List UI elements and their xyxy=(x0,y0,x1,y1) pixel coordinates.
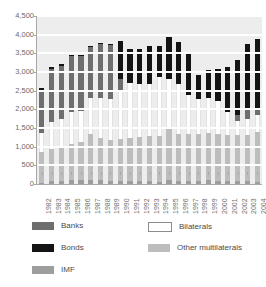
bar-column xyxy=(186,16,191,184)
bar-column xyxy=(245,16,250,184)
y-tick-label: 500 xyxy=(2,161,34,169)
bar-segment-bilaterals xyxy=(118,91,123,140)
x-tick-mark xyxy=(208,172,209,175)
legend-item-imf[interactable]: IMF xyxy=(32,266,75,274)
x-tick-mark xyxy=(130,172,131,175)
legend-item-bilaterals[interactable]: Bilaterals xyxy=(148,222,212,232)
x-tick-mark xyxy=(42,172,43,175)
y-tick-label: 1,500 xyxy=(2,124,34,132)
x-tick-label: 1993 xyxy=(153,198,160,214)
chart-figure: 4,5004,0003,5003,0002,5002,0001,5001,000… xyxy=(0,0,266,287)
legend-item-bonds[interactable]: Bonds xyxy=(32,244,84,252)
x-tick-mark xyxy=(52,172,53,175)
x-tick-label: 1983 xyxy=(55,198,62,214)
bar-column xyxy=(225,16,230,184)
bar-column xyxy=(98,16,103,184)
bar-segment-bonds xyxy=(176,42,181,84)
bar-segment-bonds xyxy=(49,67,54,69)
bar-column xyxy=(206,16,211,184)
bar-segment-bilaterals xyxy=(98,98,103,138)
plot-wrapper: 4,5004,0003,5003,0002,5002,0001,5001,000… xyxy=(0,12,266,190)
gridline xyxy=(37,90,262,92)
y-tick-label: 0 xyxy=(2,180,34,188)
x-tick-mark xyxy=(140,172,141,175)
x-tick-label: 1996 xyxy=(182,198,189,214)
bar-segment-bilaterals xyxy=(225,112,230,134)
bar-segment-bonds xyxy=(196,75,201,99)
bar-segment-bonds xyxy=(78,55,83,56)
bars-layer xyxy=(37,16,262,184)
bar-segment-banks xyxy=(59,66,64,119)
bar-segment-bonds xyxy=(235,60,240,116)
legend-swatch-other_multilaterals xyxy=(148,244,170,252)
legend-item-banks[interactable]: Banks xyxy=(32,222,83,230)
bar-segment-banks xyxy=(69,56,74,112)
x-tick-mark xyxy=(101,172,102,175)
y-tick-mark xyxy=(33,53,37,54)
bar-segment-bonds xyxy=(206,70,211,98)
x-tick-mark xyxy=(91,172,92,175)
bar-segment-bonds xyxy=(98,43,103,44)
x-tick-mark xyxy=(228,172,229,175)
gridline xyxy=(37,34,262,36)
gridline xyxy=(37,127,262,129)
y-tick-label: 3,500 xyxy=(2,49,34,57)
bar-segment-bonds xyxy=(59,64,64,67)
x-tick-mark xyxy=(247,172,248,175)
y-tick-mark xyxy=(33,35,37,36)
legend-label-banks: Banks xyxy=(61,222,83,230)
x-tick-mark xyxy=(61,172,62,175)
bar-segment-bonds xyxy=(88,46,93,47)
bar-column xyxy=(78,16,83,184)
x-tick-mark xyxy=(159,172,160,175)
bar-column xyxy=(127,16,132,184)
x-tick-label: 1997 xyxy=(192,198,199,214)
x-tick-label: 1991 xyxy=(133,198,140,214)
x-tick-label: 1987 xyxy=(94,198,101,214)
plot-area xyxy=(37,16,262,184)
x-tick-label: 1989 xyxy=(113,198,120,214)
x-tick-mark xyxy=(71,172,72,175)
x-axis-line xyxy=(36,184,262,185)
bar-segment-other_multilaterals xyxy=(39,152,44,183)
x-tick-label: 1986 xyxy=(84,198,91,214)
bar-segment-bilaterals xyxy=(215,101,220,134)
bar-column xyxy=(196,16,201,184)
bar-segment-other_multilaterals xyxy=(59,146,64,181)
bar-segment-bonds xyxy=(215,69,220,101)
x-tick-label: 1988 xyxy=(104,198,111,214)
legend-label-other_multilaterals: Other multilaterals xyxy=(177,244,242,252)
y-tick-label: 2,000 xyxy=(2,105,34,113)
bar-column xyxy=(176,16,181,184)
gridline xyxy=(37,16,262,17)
x-axis-labels: 1982198319841985198619871988198919901991… xyxy=(0,190,266,216)
x-tick-label: 1994 xyxy=(162,198,169,214)
bar-column xyxy=(118,16,123,184)
bar-segment-bilaterals xyxy=(108,99,113,139)
legend-swatch-imf xyxy=(32,266,54,274)
y-tick-label: 4,000 xyxy=(2,31,34,39)
x-tick-label: 1985 xyxy=(74,198,81,214)
x-tick-label: 2001 xyxy=(231,198,238,214)
x-tick-label: 1995 xyxy=(172,198,179,214)
bar-segment-bilaterals xyxy=(49,122,54,149)
bar-segment-bilaterals xyxy=(255,115,260,131)
legend-label-bilaterals: Bilaterals xyxy=(179,223,212,231)
y-tick-mark xyxy=(33,16,37,17)
bar-segment-bilaterals xyxy=(39,133,44,152)
legend-swatch-bonds xyxy=(32,244,54,252)
bar-segment-bonds xyxy=(108,44,113,45)
y-tick-mark xyxy=(33,109,37,110)
y-tick-mark xyxy=(33,72,37,73)
bar-column xyxy=(137,16,142,184)
x-tick-label: 2003 xyxy=(250,198,257,214)
y-tick-mark xyxy=(33,184,37,185)
legend-label-bonds: Bonds xyxy=(61,244,84,252)
x-tick-mark xyxy=(218,172,219,175)
legend-item-other_multilaterals[interactable]: Other multilaterals xyxy=(148,244,242,252)
bar-segment-banks xyxy=(245,110,250,119)
y-tick-label: 2,500 xyxy=(2,87,34,95)
x-tick-label: 2002 xyxy=(241,198,248,214)
x-tick-label: 1992 xyxy=(143,198,150,214)
x-tick-mark xyxy=(198,172,199,175)
